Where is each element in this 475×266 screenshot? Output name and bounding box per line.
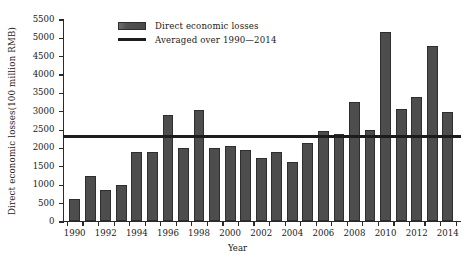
bar	[271, 152, 282, 221]
y-axis-tick: 3000	[59, 111, 64, 112]
y-axis-tick-label: 2500	[33, 124, 55, 134]
legend-line-swatch-icon	[118, 38, 146, 41]
bar	[85, 176, 96, 221]
x-axis-title: Year	[0, 243, 475, 253]
bar	[334, 134, 345, 221]
x-axis-tick	[362, 221, 363, 226]
bar	[427, 46, 438, 221]
x-axis-tick-label: 1998	[188, 228, 210, 238]
x-axis-tick-label: 2000	[219, 228, 241, 238]
y-axis-tick-label: 500	[38, 198, 54, 208]
x-axis-tick	[67, 221, 68, 226]
x-axis-tick	[253, 221, 254, 226]
x-axis-tick-label: 2004	[281, 228, 303, 238]
x-axis-line	[63, 221, 461, 222]
y-axis-tick-label: 3000	[33, 106, 55, 116]
x-axis-tick	[238, 221, 239, 226]
bar-chart-figure: Direct economic losses(100 million RMB) …	[0, 0, 475, 266]
x-axis-tick	[300, 221, 301, 226]
y-axis-tick: 5000	[59, 38, 64, 39]
y-axis-tick: 4000	[59, 74, 64, 75]
x-axis-tick-label: 2010	[375, 228, 397, 238]
bar	[287, 162, 298, 221]
x-axis-tick-label: 2012	[406, 228, 428, 238]
bar	[349, 102, 360, 221]
x-axis-tick	[440, 221, 441, 226]
x-axis-tick	[145, 221, 146, 226]
x-axis-tick	[191, 221, 192, 226]
x-axis-tick-label: 2014	[437, 228, 459, 238]
x-axis-tick-label: 2008	[344, 228, 366, 238]
x-axis-tick	[82, 221, 83, 226]
bar	[442, 112, 453, 221]
bar	[163, 115, 174, 221]
legend-line-label: Averaged over 1990—2014	[155, 35, 277, 45]
y-axis-tick: 1000	[59, 185, 64, 186]
plot-area: 0500100015002000250030003500400045005000…	[63, 20, 461, 222]
bar	[365, 130, 376, 221]
bar	[225, 146, 236, 221]
bar	[256, 158, 267, 221]
y-axis-tick-label: 5000	[33, 32, 55, 42]
y-axis-tick-label: 3500	[33, 87, 55, 97]
y-axis-tick: 2000	[59, 148, 64, 149]
x-axis-tick	[285, 221, 286, 226]
bar	[411, 97, 422, 221]
y-axis-tick-label: 0	[49, 216, 54, 226]
y-axis-tick-label: 4000	[33, 69, 55, 79]
x-axis-tick-label: 1994	[126, 228, 148, 238]
average-line	[63, 135, 461, 138]
x-axis-tick	[331, 221, 332, 226]
legend-bar-swatch-icon	[118, 22, 146, 30]
x-axis-tick	[114, 221, 115, 226]
bar	[178, 148, 189, 221]
bar	[100, 190, 111, 221]
x-axis-tick	[98, 221, 99, 226]
x-axis-tick	[269, 221, 270, 226]
bar	[240, 150, 251, 221]
y-axis-tick: 1500	[59, 166, 64, 167]
y-axis-tick-label: 2000	[33, 142, 55, 152]
y-axis-tick: 0	[59, 221, 64, 222]
bar	[116, 185, 127, 221]
bar	[69, 199, 80, 221]
bar	[302, 143, 313, 221]
y-axis-tick: 2500	[59, 130, 64, 131]
x-axis-tick-label: 1990	[64, 228, 86, 238]
bar	[147, 152, 158, 221]
x-axis-tick	[207, 221, 208, 226]
x-axis-tick	[160, 221, 161, 226]
bar	[131, 152, 142, 221]
x-axis-tick	[316, 221, 317, 226]
x-axis-tick	[424, 221, 425, 226]
bar	[194, 110, 205, 221]
bar	[318, 131, 329, 221]
y-axis-tick: 5500	[59, 19, 64, 20]
x-axis-tick	[409, 221, 410, 226]
legend-item-average: Averaged over 1990—2014	[118, 33, 277, 46]
bar	[396, 109, 407, 221]
y-axis-tick-label: 1500	[33, 161, 55, 171]
x-axis-tick-label: 1992	[95, 228, 117, 238]
y-axis-line	[63, 20, 64, 222]
x-axis-tick	[378, 221, 379, 226]
y-axis-tick: 500	[59, 203, 64, 204]
y-axis-tick-label: 4500	[33, 51, 55, 61]
y-axis-tick: 3500	[59, 93, 64, 94]
x-axis-tick	[456, 221, 457, 226]
legend-item-bars: Direct economic losses	[118, 19, 277, 32]
x-axis-tick-label: 2006	[312, 228, 334, 238]
x-axis-tick	[347, 221, 348, 226]
x-axis-tick-label: 2002	[250, 228, 272, 238]
y-axis-tick-label: 5500	[33, 14, 55, 24]
x-axis-tick	[393, 221, 394, 226]
chart-legend: Direct economic losses Averaged over 199…	[118, 19, 277, 47]
y-axis-title: Direct economic losses(100 million RMB)	[7, 13, 17, 229]
bar	[209, 148, 220, 221]
y-axis-tick-label: 1000	[33, 179, 55, 189]
x-axis-tick	[176, 221, 177, 226]
y-axis-tick: 4500	[59, 56, 64, 57]
x-axis-tick-label: 1996	[157, 228, 179, 238]
bar	[380, 32, 391, 221]
x-axis-tick	[222, 221, 223, 226]
